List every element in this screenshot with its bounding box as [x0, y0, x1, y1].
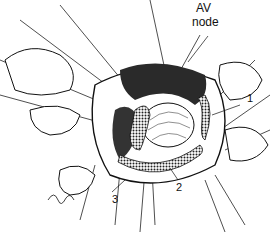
- illustration: AV node 1 2 3: [0, 0, 273, 232]
- label-av-node-line1: AV: [196, 3, 211, 14]
- label-2: 2: [176, 182, 182, 193]
- heart-surgery-drawing: [0, 0, 273, 232]
- label-3: 3: [112, 194, 118, 205]
- label-1: 1: [247, 93, 253, 104]
- label-av-node-line2: node: [192, 17, 219, 28]
